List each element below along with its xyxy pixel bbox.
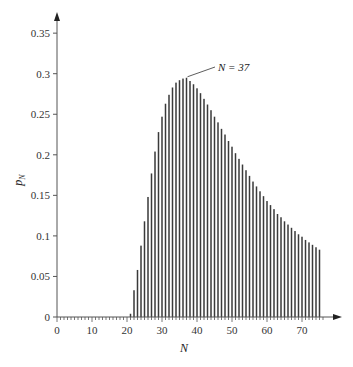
bar xyxy=(137,270,139,317)
bar xyxy=(312,245,314,317)
bar xyxy=(186,78,188,317)
bar xyxy=(263,196,265,317)
annotation-leader-line xyxy=(188,67,216,77)
bar xyxy=(221,129,223,317)
x-tick-label: 50 xyxy=(227,324,239,336)
x-tick-label: 40 xyxy=(192,324,204,336)
y-axis-ticks: 00.050.10.150.20.250.30.35 xyxy=(31,27,57,323)
bar xyxy=(189,81,191,317)
x-tick-label: 0 xyxy=(54,324,60,336)
bar xyxy=(196,88,198,317)
y-tick-label: 0.25 xyxy=(31,108,51,120)
x-tick-label: 60 xyxy=(262,324,274,336)
bar xyxy=(319,250,321,317)
y-tick-label: 0.35 xyxy=(31,27,51,39)
y-tick-label: 0.3 xyxy=(36,68,50,80)
bar xyxy=(172,87,174,317)
svg-text:pN: pN xyxy=(11,174,27,187)
bar xyxy=(273,209,275,317)
bar xyxy=(256,186,258,317)
bar xyxy=(207,105,209,317)
bar xyxy=(277,214,279,317)
x-axis-label: N xyxy=(179,341,189,355)
bar xyxy=(203,99,205,317)
bar xyxy=(175,83,177,317)
bar xyxy=(259,191,261,317)
bar xyxy=(305,240,307,317)
bar xyxy=(154,152,156,317)
bar xyxy=(238,159,240,317)
annotation-label: N = 37 xyxy=(217,61,250,73)
bar xyxy=(228,141,230,317)
y-axis-label-main: p xyxy=(11,180,25,187)
x-tick-label: 70 xyxy=(297,324,309,336)
bar xyxy=(140,246,142,317)
bar xyxy=(193,84,195,317)
bar xyxy=(298,234,300,317)
bar xyxy=(252,182,254,317)
x-axis-ticks: 010203040506070 xyxy=(54,317,323,336)
y-axis-arrow-icon xyxy=(54,12,60,21)
bar xyxy=(151,173,153,317)
y-tick-label: 0.15 xyxy=(31,189,51,201)
bar xyxy=(231,147,233,317)
bar xyxy=(144,221,146,317)
x-tick-label: 10 xyxy=(87,324,99,336)
bar xyxy=(200,93,202,317)
bar xyxy=(301,237,303,317)
bar xyxy=(270,205,272,317)
bar xyxy=(182,79,184,317)
y-tick-label: 0.05 xyxy=(31,270,51,282)
y-axis-label-subscript: N xyxy=(18,174,27,181)
bar xyxy=(315,247,317,317)
x-tick-label: 20 xyxy=(122,324,134,336)
bar xyxy=(280,217,282,317)
y-tick-label: 0 xyxy=(45,311,51,323)
bar xyxy=(294,231,296,317)
bar xyxy=(249,176,251,317)
bar-chart: 00.050.10.150.20.250.30.35 0102030405060… xyxy=(0,0,353,367)
bar xyxy=(224,135,226,317)
y-tick-label: 0.1 xyxy=(36,230,50,242)
bar xyxy=(235,153,237,317)
bar xyxy=(165,104,167,317)
bars xyxy=(130,78,321,317)
bar xyxy=(168,95,170,317)
bar xyxy=(284,221,286,317)
bar xyxy=(266,201,268,317)
bar xyxy=(161,117,163,317)
bar xyxy=(308,242,310,317)
y-tick-label: 0.2 xyxy=(36,149,50,161)
bar xyxy=(287,225,289,317)
y-axis-label: pN xyxy=(11,174,27,187)
bar xyxy=(158,132,160,317)
bar xyxy=(147,197,149,317)
bar xyxy=(242,165,244,317)
bar xyxy=(214,117,216,317)
bar xyxy=(245,170,247,317)
bar xyxy=(133,290,135,317)
x-tick-label: 30 xyxy=(157,324,169,336)
bar xyxy=(217,122,219,317)
bar xyxy=(291,228,293,317)
bar xyxy=(179,80,181,317)
x-axis-arrow-icon xyxy=(333,314,342,320)
bar xyxy=(210,110,212,317)
